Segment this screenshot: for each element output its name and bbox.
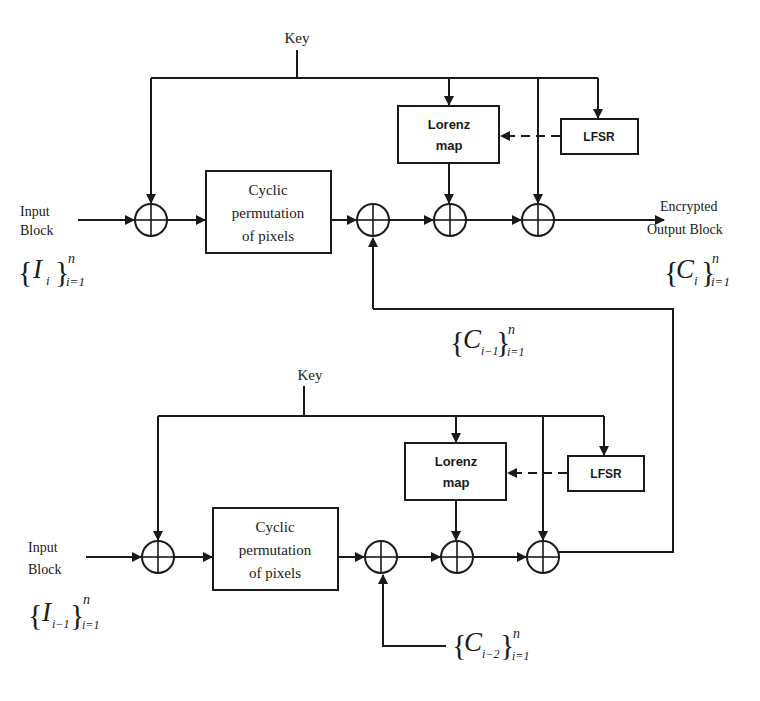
top-output-label-2: Output Block <box>647 222 723 237</box>
bottom-xor3-circle-plus-icon <box>441 541 473 573</box>
svg-text:map: map <box>436 138 463 153</box>
svg-text:i=1: i=1 <box>507 345 524 359</box>
top-xor4-circle-plus-icon <box>522 204 554 236</box>
svg-text:n: n <box>68 251 75 266</box>
svg-text:of pixels: of pixels <box>249 565 301 581</box>
svg-text:LFSR: LFSR <box>590 467 622 481</box>
bottom-input-set: { I i−1 } n i=1 <box>28 592 99 632</box>
svg-text:C: C <box>464 627 483 657</box>
bottom-input-label: Input <box>28 540 58 555</box>
svg-text:i−1: i−1 <box>52 617 69 631</box>
bottom-xor4-circle-plus-icon <box>527 541 559 573</box>
svg-text:Cyclic: Cyclic <box>255 519 294 535</box>
svg-text:n: n <box>83 592 90 607</box>
svg-text:i=1: i=1 <box>82 618 99 632</box>
svg-text:Lorenz: Lorenz <box>435 454 478 469</box>
chain-into-bottom-xor2 <box>383 575 446 646</box>
svg-text:i=1: i=1 <box>512 649 529 663</box>
svg-text:C: C <box>463 324 482 354</box>
svg-text:map: map <box>443 475 470 490</box>
svg-text:permutation: permutation <box>239 542 312 558</box>
top-input-label-2: Block <box>20 223 53 238</box>
top-key-label: Key <box>285 30 310 46</box>
svg-text:n: n <box>508 322 515 337</box>
top-xor3-circle-plus-icon <box>434 204 466 236</box>
svg-text:i: i <box>694 273 698 288</box>
top-input-set: { I i } n i=1 <box>18 251 85 289</box>
feedback-set: { C i−1 } n i=1 <box>450 322 524 359</box>
bottom-input-label-2: Block <box>28 562 61 577</box>
svg-text:Lorenz: Lorenz <box>428 117 471 132</box>
svg-text:of pixels: of pixels <box>242 228 294 244</box>
bottom-lorenz-map-box <box>405 443 506 500</box>
bottom-xor1-circle-plus-icon <box>142 541 174 573</box>
bottom-xor2-circle-plus-icon <box>365 541 397 573</box>
top-output-label: Encrypted <box>660 199 718 214</box>
chain-set: { C i−2 } n i=1 <box>452 626 529 663</box>
svg-text:{: { <box>28 598 42 631</box>
bottom-stage: Key Input Block { I i−1 } n i=1 Cyclic p… <box>28 367 644 663</box>
encryption-block-diagram: Key Input Block { I i } n i=1 Cyclic per… <box>0 0 760 701</box>
svg-text:i: i <box>46 273 50 288</box>
svg-text:LFSR: LFSR <box>583 130 615 144</box>
top-xor2-circle-plus-icon <box>357 204 389 236</box>
svg-text:i−2: i−2 <box>482 647 499 661</box>
top-output-set: { C i } n i=1 <box>664 251 730 289</box>
svg-text:permutation: permutation <box>232 205 305 221</box>
svg-text:{: { <box>18 255 32 288</box>
svg-text:n: n <box>513 626 520 641</box>
top-input-label: Input <box>20 204 50 219</box>
svg-text:n: n <box>712 251 719 266</box>
svg-text:i=1: i=1 <box>711 274 730 289</box>
svg-text:C: C <box>676 254 695 284</box>
top-xor1-circle-plus-icon <box>135 204 167 236</box>
top-lorenz-map-box <box>398 106 499 163</box>
svg-text:I: I <box>32 254 44 284</box>
svg-text:Cyclic: Cyclic <box>248 182 287 198</box>
svg-text:i=1: i=1 <box>66 274 85 289</box>
bottom-key-label: Key <box>298 367 323 383</box>
